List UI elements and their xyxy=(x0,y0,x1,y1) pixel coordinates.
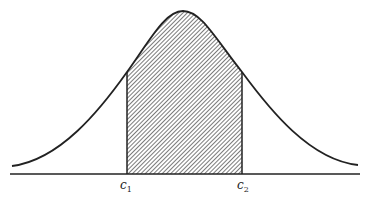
c1-label-base: c xyxy=(120,178,127,192)
shaded-area xyxy=(12,11,358,174)
normal-curve-diagram xyxy=(0,0,373,201)
c1-label: c1 xyxy=(120,178,132,194)
c2-label-sub: 2 xyxy=(244,185,249,194)
c2-label-base: c xyxy=(237,178,244,192)
c2-label: c2 xyxy=(237,178,249,194)
c1-label-sub: 1 xyxy=(127,185,132,194)
